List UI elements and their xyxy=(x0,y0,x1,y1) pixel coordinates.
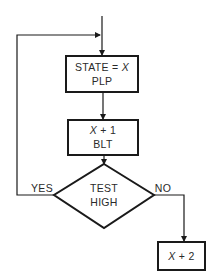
inc1-line2: BLT xyxy=(68,138,138,150)
test-line1: TEST xyxy=(74,182,134,194)
state-text: STATE = xyxy=(75,61,122,73)
no-branch-connector xyxy=(154,195,184,241)
state-plp-label: STATE = X PLP xyxy=(66,61,138,87)
inc2-label: X + 2 xyxy=(158,250,205,262)
state-plp-line2: PLP xyxy=(66,75,138,87)
test-line2: HIGH xyxy=(74,196,134,208)
inc1-blt-label: X + 1 BLT xyxy=(68,124,138,150)
test-high-label: TEST HIGH xyxy=(74,182,134,208)
state-plp-line1: STATE = X xyxy=(66,61,138,73)
state-var: X xyxy=(122,61,129,73)
inc1-line1: X + 1 xyxy=(68,124,138,136)
yes-label: YES xyxy=(30,182,54,194)
inc2-suffix: + 2 xyxy=(176,250,195,262)
inc2-var: X xyxy=(168,250,175,262)
no-label: NO xyxy=(154,182,172,194)
inc1-suffix: + 1 xyxy=(97,124,116,136)
